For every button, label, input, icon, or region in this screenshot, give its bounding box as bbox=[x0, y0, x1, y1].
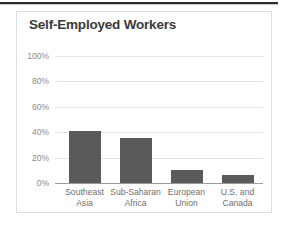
bar[interactable] bbox=[69, 131, 101, 183]
y-axis-tick-label: 100% bbox=[27, 51, 49, 61]
gridline-80 bbox=[55, 81, 263, 82]
y-axis-tick-label: 0% bbox=[37, 178, 49, 188]
bar[interactable] bbox=[171, 170, 203, 183]
bar[interactable] bbox=[120, 138, 152, 183]
y-axis-tick-label: 40% bbox=[32, 127, 49, 137]
plot-area: 0%20%40%60%80%100%Southeast AsiaSub-Saha… bbox=[17, 12, 271, 212]
y-axis-tick-label: 20% bbox=[32, 153, 49, 163]
bar[interactable] bbox=[222, 175, 254, 183]
x-axis-category-label: U.S. and Canada bbox=[212, 187, 263, 209]
x-axis-category-label: Southeast Asia bbox=[59, 187, 110, 209]
x-axis-category-label: European Union bbox=[161, 187, 212, 209]
gridline-100 bbox=[55, 56, 263, 57]
y-axis-tick-label: 80% bbox=[32, 76, 49, 86]
top-divider-shadow bbox=[0, 4, 278, 5]
gridline-60 bbox=[55, 107, 263, 108]
chart-card: Self-Employed Workers 0%20%40%60%80%100%… bbox=[16, 11, 272, 213]
x-axis-category-label: Sub-Saharan Africa bbox=[110, 187, 161, 209]
x-axis-line bbox=[55, 183, 263, 184]
y-axis-tick-label: 60% bbox=[32, 102, 49, 112]
